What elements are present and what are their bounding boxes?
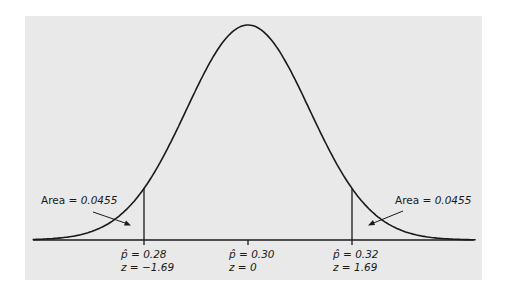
left-phat-label: p̂ = 0.28 [120,248,167,260]
center-z-label: z = 0 [228,261,257,273]
normal-distribution-chart: Area = 0.0455 Area = 0.0455 p̂ = 0.28 z … [0,0,506,293]
left-z-label: z = −1.69 [120,261,174,273]
right-z-label: z = 1.69 [332,261,378,273]
center-phat-label: p̂ = 0.30 [228,248,275,260]
right-area-label: Area = 0.0455 [395,194,472,206]
right-phat-label: p̂ = 0.32 [332,248,379,260]
left-area-label: Area = 0.0455 [41,194,118,206]
